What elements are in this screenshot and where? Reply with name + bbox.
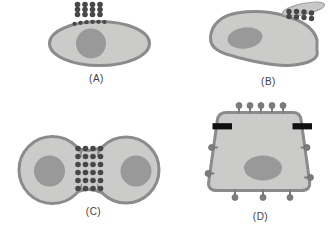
cell-d-nucleus <box>244 156 282 181</box>
cell-b-body <box>210 12 317 66</box>
panel-d-label: (D) <box>253 211 268 222</box>
cell-c-left-nucleus <box>34 156 65 187</box>
cell-a-nucleus <box>76 29 106 59</box>
panel-b-label: (B) <box>261 76 276 87</box>
cell-diagram-figure: (A) (B) <box>0 0 334 234</box>
cell-d-left-junction-bar-icon <box>213 123 233 129</box>
panel-a-label: (A) <box>89 73 104 84</box>
cell-c-right-nucleus <box>121 156 152 187</box>
panel-a: (A) <box>50 2 150 84</box>
figure-svg: (A) (B) <box>0 0 334 234</box>
cell-d-right-junction-bar-icon <box>293 123 313 129</box>
panel-d: (D) <box>205 103 314 223</box>
panel-b: (B) <box>210 0 325 87</box>
panel-c: (C) <box>19 137 159 218</box>
cell-c-neck-top-membrane <box>78 148 101 151</box>
panel-c-label: (C) <box>86 206 101 217</box>
cell-c-neck-bottom-membrane <box>78 189 101 192</box>
